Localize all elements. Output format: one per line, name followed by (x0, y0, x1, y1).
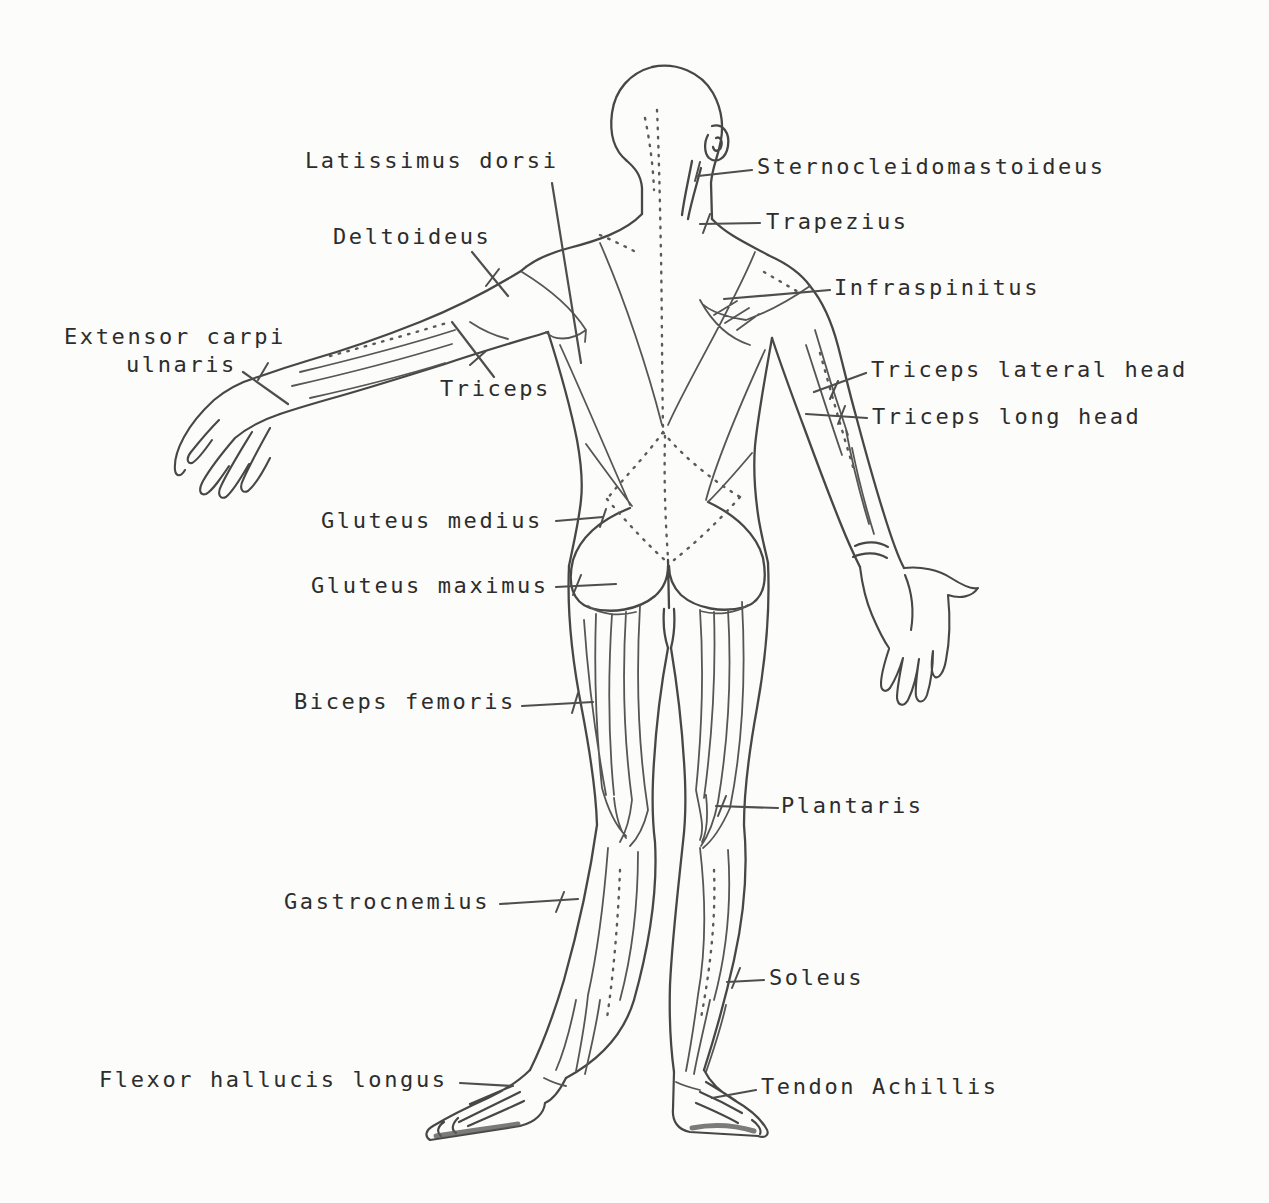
label-extensor-carpi-line2: ulnaris (126, 352, 237, 378)
label-gluteus-maximus: Gluteus maximus (311, 573, 549, 599)
anatomy-diagram-page: Latissimus dorsi Sternocleidomastoideus … (0, 0, 1269, 1203)
label-tendon-achillis: Tendon Achillis (761, 1074, 999, 1100)
label-trapezius: Trapezius (766, 209, 909, 235)
sole-shading (436, 1124, 754, 1136)
torso-outline (521, 214, 810, 566)
muscle-detail-lines (292, 243, 874, 1090)
label-latissimus-dorsi: Latissimus dorsi (305, 148, 559, 174)
label-biceps-femoris: Biceps femoris (294, 689, 516, 715)
legs-outline (530, 563, 769, 1078)
head-neck-outline (611, 66, 728, 219)
label-plantaris: Plantaris (781, 793, 924, 819)
glutes-outline (571, 502, 765, 648)
label-triceps: Triceps (440, 376, 551, 402)
label-flexor-hallucis-longus: Flexor hallucis longus (99, 1067, 448, 1093)
label-sternocleidomastoideus: Sternocleidomastoideus (757, 154, 1106, 180)
label-triceps-lateral-head: Triceps lateral head (871, 357, 1188, 383)
label-extensor-carpi-line1: Extensor carpi (64, 324, 286, 350)
leader-lines (243, 170, 867, 1098)
right-hand (853, 542, 978, 704)
label-soleus: Soleus (769, 965, 864, 991)
label-deltoideus: Deltoideus (333, 224, 491, 250)
label-infraspinitus: Infraspinitus (834, 275, 1040, 301)
anatomy-figure (0, 0, 1269, 1203)
label-gluteus-medius: Gluteus medius (321, 508, 543, 534)
label-gastrocnemius: Gastrocnemius (284, 889, 490, 915)
label-triceps-long-head: Triceps long head (872, 404, 1141, 430)
left-hand (175, 377, 280, 498)
